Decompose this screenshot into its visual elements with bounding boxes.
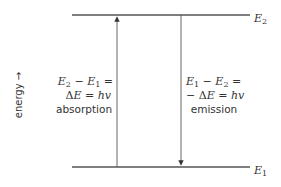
emission-caption: emission	[191, 103, 238, 115]
emission-label: E1 − E2 = − ΔE = hv emission	[185, 75, 245, 115]
level-label-e1: E1	[253, 164, 267, 178]
emission-equation-line1: E1 − E2 =	[185, 75, 241, 89]
energy-axis-label: energy →	[13, 72, 24, 118]
absorption-label: E2 − E1 = ΔE = hv absorption	[56, 75, 113, 115]
level-label-e2: E2	[253, 12, 267, 26]
emission-equation-line2: − ΔE = hv	[186, 89, 245, 102]
absorption-equation-line1: E2 − E1 =	[57, 75, 113, 89]
absorption-equation-line2: ΔE = hv	[65, 89, 111, 102]
energy-level-diagram: E2 E1 energy → E2 − E1 = ΔE = hv absorpt…	[0, 0, 281, 187]
absorption-caption: absorption	[56, 103, 112, 115]
